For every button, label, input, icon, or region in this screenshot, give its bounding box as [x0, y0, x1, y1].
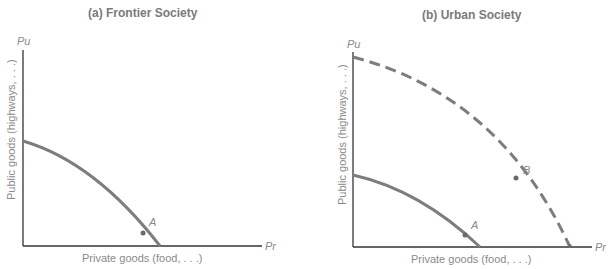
y-axis-end-label: Pu — [347, 38, 360, 50]
y-axis-label: Public goods (highways, . . .) — [336, 64, 348, 205]
ppf-curve — [23, 141, 160, 246]
point-a-label: A — [471, 219, 478, 231]
point-b-marker — [514, 176, 519, 181]
panel-urban-society: (b) Urban Society Pu Pr Public goods (hi… — [305, 0, 611, 269]
y-axis-end-label: Pu — [17, 35, 30, 47]
point-a-label: A — [149, 216, 156, 228]
x-axis-label: Private goods (food, . . .) — [82, 252, 202, 264]
ppf-curve-urban — [353, 57, 570, 247]
point-b-label: B — [523, 164, 530, 176]
urban-intercept-marker — [568, 244, 572, 248]
x-axis-end-label: Pr — [265, 240, 276, 252]
frontier-chart — [0, 0, 300, 269]
ppf-curve-frontier — [353, 175, 480, 247]
x-axis-label: Private goods (food, . . .) — [411, 253, 531, 265]
point-a-marker — [141, 231, 146, 236]
panel-frontier-society: (a) Frontier Society Pu Pr Public goods … — [0, 0, 300, 269]
y-axis-label: Public goods (highways, . . .) — [5, 59, 17, 200]
x-axis-end-label: Pr — [595, 241, 606, 253]
point-a-marker — [463, 233, 468, 238]
